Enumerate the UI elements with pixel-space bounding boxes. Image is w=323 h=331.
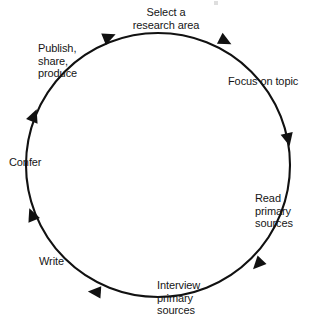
- research-cycle-diagram: Select a research area Focus on topic Re…: [0, 0, 323, 331]
- stage-label-select-research-area: Select a research area: [118, 6, 214, 31]
- scan-artifact-speck: [214, 1, 218, 5]
- arrowhead: [281, 132, 293, 146]
- arrowhead: [217, 33, 231, 44]
- stage-label-interview-primary-sources: Interview primary sources: [157, 279, 233, 317]
- arrowhead: [26, 109, 38, 123]
- stage-label-confer: Confer: [9, 156, 57, 169]
- arrowhead: [88, 286, 101, 298]
- stage-label-focus-on-topic: Focus on topic: [228, 75, 322, 88]
- stage-label-publish-share-produce: Publish, share, produce: [38, 42, 96, 80]
- stage-label-write: Write: [39, 255, 83, 268]
- stage-label-read-primary-sources: Read primary sources: [255, 192, 319, 230]
- arrowhead: [253, 255, 266, 269]
